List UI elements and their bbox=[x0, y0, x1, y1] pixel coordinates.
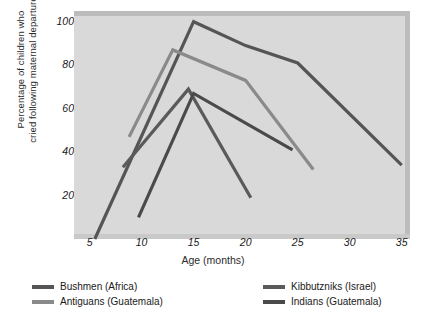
x-tick-15: 15 bbox=[179, 236, 209, 248]
x-tick-5: 5 bbox=[75, 236, 105, 248]
chart-legend: Bushmen (Africa)Antiguans (Guatemala)Kib… bbox=[0, 281, 426, 315]
legend-label: Bushmen (Africa) bbox=[60, 281, 137, 292]
legend-swatch-icon bbox=[263, 285, 285, 289]
legend-swatch-icon bbox=[32, 285, 54, 289]
legend-label: Indians (Guatemala) bbox=[291, 296, 382, 307]
legend-label: Kibbutzniks (Israel) bbox=[291, 281, 376, 292]
legend-item-indians-guatemala[interactable]: Indians (Guatemala) bbox=[263, 296, 382, 307]
x-axis-title: Age (months) bbox=[0, 254, 426, 266]
plot-right-edge bbox=[405, 11, 410, 239]
x-tick-30: 30 bbox=[335, 236, 365, 248]
legend-swatch-icon bbox=[32, 300, 54, 304]
legend-item-antiguans-guatemala[interactable]: Antiguans (Guatemala) bbox=[32, 296, 163, 307]
x-tick-25: 25 bbox=[283, 236, 313, 248]
figure: Percentage of children who cried followi… bbox=[0, 0, 426, 327]
x-tick-10: 10 bbox=[127, 236, 157, 248]
x-axis-tick-labels: 5101520253035 bbox=[0, 236, 426, 252]
x-tick-20: 20 bbox=[231, 236, 261, 248]
legend-label: Antiguans (Guatemala) bbox=[60, 296, 163, 307]
legend-item-kibbutzniks-israel[interactable]: Kibbutzniks (Israel) bbox=[263, 281, 376, 292]
plot-top-edge bbox=[74, 11, 410, 16]
plot-area bbox=[0, 0, 426, 327]
x-tick-35: 35 bbox=[387, 236, 417, 248]
legend-item-bushmen-africa[interactable]: Bushmen (Africa) bbox=[32, 281, 137, 292]
legend-swatch-icon bbox=[263, 300, 285, 304]
